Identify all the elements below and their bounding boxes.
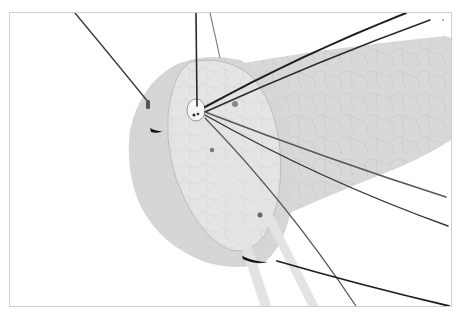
tissue-render	[0, 0, 460, 319]
central-hub	[187, 99, 205, 121]
marker	[258, 213, 263, 218]
fiber	[75, 13, 149, 103]
fiber	[196, 13, 197, 106]
fiber	[210, 13, 220, 58]
marker	[210, 148, 214, 152]
render-viewport	[0, 0, 460, 319]
marker	[232, 101, 238, 107]
marker	[146, 100, 150, 109]
